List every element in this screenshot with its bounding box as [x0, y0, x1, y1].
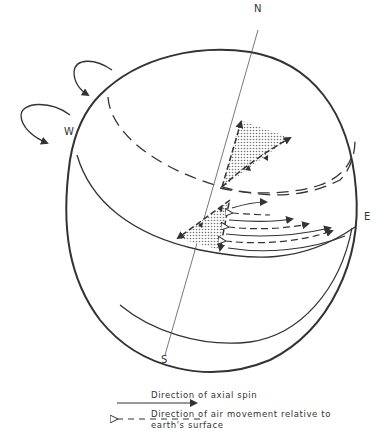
label-south: S: [161, 354, 168, 365]
label-north: N: [254, 3, 262, 14]
globe-diagram: [0, 0, 390, 444]
legend-air-movement-label-line1: Direction of air movement relative to: [151, 409, 331, 419]
southern-stipple-wedge: [178, 200, 230, 250]
lower-band-line: [120, 228, 352, 343]
label-east: E: [364, 211, 371, 222]
northern-stipple-wedge: [222, 120, 290, 188]
legend-axial-spin-label: Direction of axial spin: [151, 390, 257, 400]
legend-air-movement-label-line2: earth's surface: [151, 420, 224, 430]
label-west: W: [64, 126, 74, 137]
globe-outline: [66, 50, 356, 372]
